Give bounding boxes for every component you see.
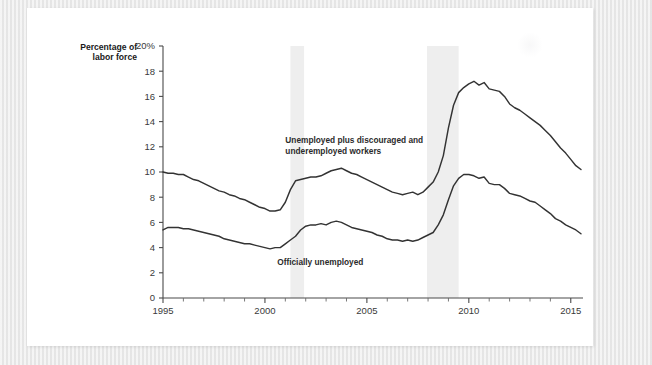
x-tick-label: 2015 (560, 305, 581, 316)
y-axis-title-line1: Percentage of (80, 42, 137, 52)
y-tick-label: 4 (150, 242, 155, 253)
y-tick-labels-group: 02468101214161820% (136, 40, 156, 303)
unemployment-line-chart: 02468101214161820% 19952000200520102015 … (27, 8, 593, 346)
screenshot-canvas: 02468101214161820% 19952000200520102015 … (0, 0, 652, 365)
y-axis-title-line2: labor force (93, 52, 138, 62)
x-tick-label: 2010 (458, 305, 479, 316)
y-tick-label: 8 (150, 192, 155, 203)
x-tick-label: 2000 (254, 305, 275, 316)
y-axis-title-group: Percentage oflabor force (80, 42, 137, 63)
upper-series-label-line1: Unemployed plus discouraged and (285, 135, 423, 145)
y-tick-label: 10 (144, 166, 155, 177)
y-tick-label: 6 (150, 217, 155, 228)
y-tick-label: 0 (150, 292, 155, 303)
series-line-officially-unemployed (163, 175, 581, 249)
upper-series-label-line2: underemployed workers (285, 146, 381, 156)
lower-series-label: Officially unemployed (277, 257, 363, 267)
y-tick-label: 18 (144, 66, 155, 77)
y-tick-label: 14 (144, 116, 155, 127)
y-tick-label: 16 (144, 91, 155, 102)
data-series-group (163, 81, 581, 249)
x-tick-label: 2005 (356, 305, 377, 316)
y-tick-label: 2 (150, 267, 155, 278)
x-tick-label: 1995 (152, 305, 173, 316)
recession-2008 (427, 46, 459, 298)
chart-figure: 02468101214161820% 19952000200520102015 … (27, 8, 593, 346)
y-tick-label: 20% (136, 40, 156, 51)
chart-page: 02468101214161820% 19952000200520102015 … (27, 8, 593, 346)
x-tick-labels-group: 19952000200520102015 (152, 305, 581, 316)
y-tick-label: 12 (144, 141, 155, 152)
axes-group (159, 46, 583, 303)
